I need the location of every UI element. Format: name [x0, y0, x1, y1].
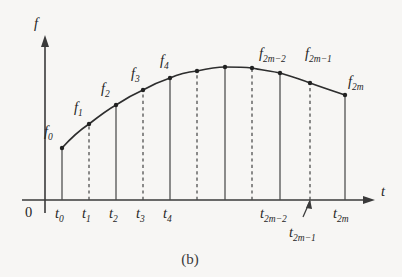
f-label-2m-1: f2m−1: [305, 45, 332, 64]
figure-caption: (b): [181, 251, 199, 268]
node-marker-10: [343, 93, 347, 97]
f-labels-group: f0 f1 f2 f3 f4 f2m−2 f2m−1 f2m: [44, 45, 364, 142]
t-label-2m-2: t2m−2: [260, 205, 287, 224]
node-marker-3: [141, 88, 145, 92]
t-labels-group: t0 t1 t2 t3 t4 t2m−2 t2m−1 t2m: [55, 205, 349, 243]
node-marker-2: [114, 103, 118, 107]
t-label-1: t1: [82, 205, 91, 224]
node-marker-4: [168, 76, 172, 80]
node-marker-6: [223, 65, 227, 69]
node-markers-group: [60, 65, 347, 150]
t-label-2: t2: [109, 205, 118, 224]
y-axis-arrowhead: [41, 35, 49, 47]
node-marker-1: [87, 122, 91, 126]
f-label-4: f4: [160, 52, 169, 71]
node-marker-7: [250, 66, 254, 70]
f-label-0: f0: [44, 123, 53, 142]
f-label-1: f1: [74, 99, 83, 118]
t-label-2m: t2m: [333, 205, 349, 224]
figure-container: f t 0 f0 f1 f2 f3 f4 f2m−2 f2m−1 f2m t0 …: [0, 0, 402, 277]
node-marker-5: [195, 69, 199, 73]
t-label-2m-1: t2m−1: [289, 224, 316, 243]
node-marker-0: [60, 146, 64, 150]
node-marker-9: [308, 81, 312, 85]
t-label-4: t4: [163, 205, 172, 224]
simpson-rule-diagram: f t 0 f0 f1 f2 f3 f4 f2m−2 f2m−1 f2m t0 …: [0, 0, 402, 277]
origin-label: 0: [25, 204, 32, 220]
x-axis-label: t: [381, 183, 386, 199]
node-marker-8: [278, 71, 282, 75]
y-axis-label: f: [34, 15, 40, 31]
t-label-3: t3: [136, 205, 145, 224]
f-label-2m-2: f2m−2: [259, 45, 286, 64]
t-label-0: t0: [55, 205, 64, 224]
f-label-2: f2: [101, 80, 110, 99]
f-label-3: f3: [131, 65, 140, 84]
x-axis-arrowhead: [363, 196, 375, 204]
f-label-2m: f2m: [348, 73, 364, 92]
